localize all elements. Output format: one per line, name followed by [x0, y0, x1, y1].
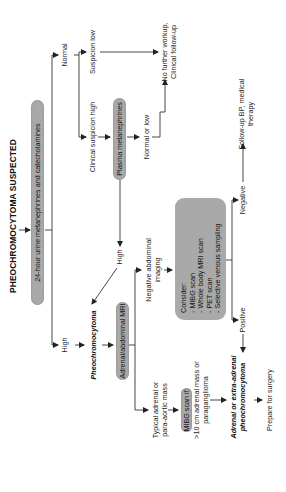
no-further-workup-line1: No further workup, [160, 22, 169, 81]
diagram-title: PHEOCHROMOCYTOMA SUSPECTED [9, 139, 17, 293]
typical-mass-node: Typical adrenal or para-aortic mass [152, 382, 169, 439]
suspicion-low-label: Suspicion low [89, 30, 97, 74]
consider-node: Consider: - MIBG scan - Whole body MRI s… [175, 198, 226, 320]
plasma-high-label: High [116, 250, 124, 265]
no-further-workup-line2: Clinical follow-up [169, 22, 178, 81]
normal-or-low-label: Normal or low [143, 115, 151, 159]
consider-item-venous-sampling: - Selective venous sampling [214, 205, 223, 313]
urine-test-node: 24-hour urine metanephrines and catechol… [31, 100, 44, 305]
flowchart-canvas: PHEOCHROMOCYTOMA SUSPECTED 24-hour urine… [0, 0, 286, 492]
typical-mass-line2: para-aortic mass [161, 382, 170, 439]
positive-label: Positive [239, 307, 247, 332]
no-further-workup-node: No further workup, Clinical follow-up [160, 22, 178, 81]
follow-up-line2: therapy [247, 79, 256, 150]
clinical-suspicion-high-label: Clinical suspicion high [89, 102, 97, 173]
high-label: High [61, 338, 69, 353]
negative-imaging-node: Negative abdominal imaging [145, 238, 162, 302]
negative-label: Negative [239, 186, 247, 214]
plasma-metanephrines-node: Plasma metanephrines [113, 98, 126, 180]
adrenal-extra-line2: pheochromocytoma [239, 355, 248, 438]
pheochromocytoma-label: Pheochromocytoma [90, 310, 98, 379]
mibg-criteria-line2: paraganglioma [202, 361, 211, 438]
arrow-high-to-pheo [92, 268, 117, 304]
adrenal-mri-node: Adrenal/abdominal MRI [116, 302, 129, 380]
arrow-normal-low-to-no-workup [152, 80, 165, 137]
negative-imaging-line2: imaging [154, 238, 163, 302]
adrenal-extra-adrenal-node: Adrenal or extra-adrenal pheochromocytom… [230, 355, 247, 438]
mibg-criteria-node: >10 cm adrenal mass or paraganglioma [193, 361, 210, 438]
mibg-scan-node: MIBG scan if: [181, 388, 192, 432]
prepare-surgery-node: Prepare for surgery [266, 369, 274, 431]
follow-up-node: Follow-up BP, medical therapy [238, 79, 255, 150]
normal-label: Normal [61, 43, 69, 66]
